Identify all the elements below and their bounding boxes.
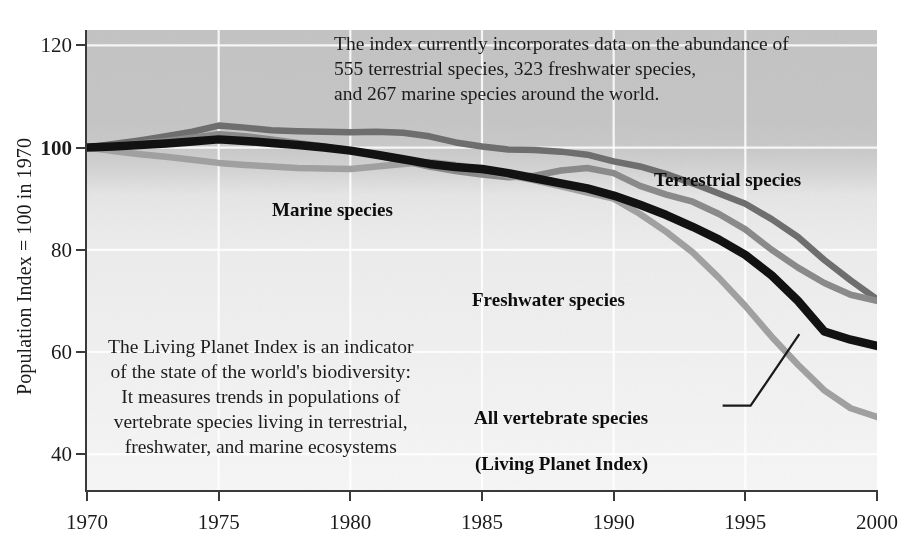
y-tick-mark-80 — [76, 249, 86, 251]
x-tick-mark-1990 — [613, 492, 615, 501]
y-axis-ticks: 120100806040 — [0, 0, 72, 549]
x-axis-ticks: 1970197519801985199019952000 — [0, 500, 889, 540]
y-tick-mark-60 — [76, 351, 86, 353]
series-label-all-vertebrate-line2: (Living Planet Index) — [475, 453, 648, 474]
series-label-all-vertebrate: All vertebrate species (Living Planet In… — [456, 383, 648, 498]
x-tick-mark-1975 — [218, 492, 220, 501]
x-tick-mark-1985 — [481, 492, 483, 501]
x-tick-mark-2000 — [876, 492, 878, 501]
series-label-marine: Marine species — [272, 198, 393, 221]
series-label-terrestrial: Terrestrial species — [654, 168, 801, 191]
y-tick-label-80: 80 — [12, 237, 72, 262]
x-tick-label-2000: 2000 — [856, 510, 898, 535]
annotation-lpi-definition: The Living Planet Index is an indicator … — [108, 334, 413, 459]
x-tick-label-1995: 1995 — [724, 510, 766, 535]
x-tick-mark-1970 — [86, 492, 88, 501]
y-tick-label-40: 40 — [12, 442, 72, 467]
y-tick-mark-40 — [76, 453, 86, 455]
y-tick-mark-100 — [76, 147, 86, 149]
x-tick-label-1975: 1975 — [198, 510, 240, 535]
series-label-freshwater: Freshwater species — [472, 288, 625, 311]
x-tick-mark-1995 — [744, 492, 746, 501]
x-tick-label-1985: 1985 — [461, 510, 503, 535]
x-tick-label-1970: 1970 — [66, 510, 108, 535]
leader-line-all-vertebrate — [723, 334, 800, 406]
y-tick-label-120: 120 — [12, 33, 72, 58]
x-tick-label-1990: 1990 — [593, 510, 635, 535]
y-tick-mark-120 — [76, 44, 86, 46]
y-tick-label-100: 100 — [12, 135, 72, 160]
y-tick-label-60: 60 — [12, 340, 72, 365]
x-tick-label-1980: 1980 — [329, 510, 371, 535]
series-label-all-vertebrate-line1: All vertebrate species — [474, 407, 648, 428]
annotation-index-composition: The index currently incorporates data on… — [334, 31, 789, 106]
x-tick-mark-1980 — [349, 492, 351, 501]
